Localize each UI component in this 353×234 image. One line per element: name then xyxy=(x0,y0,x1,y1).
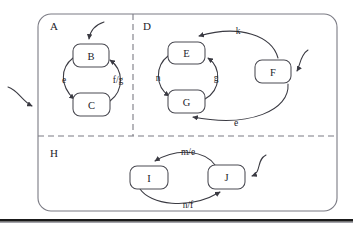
state-label-c: C xyxy=(88,100,95,111)
transition-f-to-g xyxy=(193,84,288,120)
state-label-g: G xyxy=(183,97,191,108)
state-label-b: B xyxy=(87,51,94,62)
state-label-j: J xyxy=(224,172,228,183)
transition-label-k-fe: k xyxy=(236,26,241,36)
transition-i-to-j xyxy=(140,189,220,204)
region-label-d: D xyxy=(143,20,151,32)
transition-label-nf-ij: n/f xyxy=(183,200,194,210)
state-label-f: F xyxy=(270,67,276,78)
footer-rule xyxy=(0,219,353,222)
entry-arrow-j xyxy=(252,155,266,176)
transition-label-fg-cb: f/g xyxy=(113,75,124,85)
entry-arrow-b xyxy=(89,22,104,39)
transition-label-me-ji: m/e xyxy=(181,147,195,157)
transition-label-e-fg: e xyxy=(234,118,238,128)
entry-arrow-outer xyxy=(8,87,32,106)
transition-label-e-bc: e xyxy=(62,75,66,85)
transition-label-n-eg: n xyxy=(156,73,161,83)
state-label-i: I xyxy=(147,173,151,184)
region-label-h: H xyxy=(50,147,58,159)
transition-label-g-ge: g xyxy=(214,73,219,83)
statechart-canvas: A D H e f/g B C n g k e xyxy=(0,0,353,234)
entry-arrow-f xyxy=(297,50,308,71)
footer-rule-shadow xyxy=(0,222,353,223)
region-label-a: A xyxy=(50,20,58,32)
statechart-figure: A D H e f/g B C n g k e xyxy=(0,0,353,234)
state-label-e: E xyxy=(183,48,189,59)
